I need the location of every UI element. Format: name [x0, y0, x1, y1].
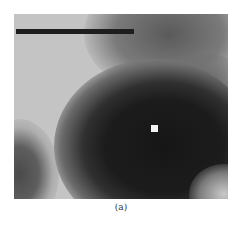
- dark-region-lower-left: [14, 119, 59, 199]
- intensity-map-image: [14, 14, 228, 199]
- scale-bar: [16, 29, 134, 34]
- center-marker: [151, 125, 158, 132]
- panel-caption: (a): [0, 202, 242, 212]
